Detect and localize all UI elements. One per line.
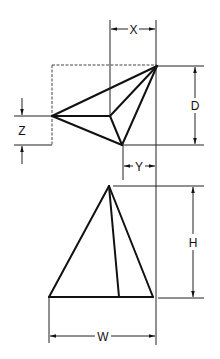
dimension-h: H [113, 186, 204, 298]
front-edge-left [49, 186, 109, 297]
top-edge-bottom-apex [122, 66, 157, 145]
dimension-h-label: H [189, 236, 198, 250]
top-edge-inner-apex [110, 66, 157, 116]
dimension-y-label: Y [135, 160, 143, 174]
pyramid-projection-diagram: X D Z Y H W [0, 0, 220, 359]
dimension-x-label: X [129, 23, 137, 37]
front-view [49, 186, 153, 297]
dimension-w: W [49, 298, 155, 344]
dimension-w-label: W [97, 330, 109, 344]
top-view [52, 65, 157, 145]
front-edge-inner [109, 186, 119, 297]
dimension-y: Y [123, 145, 155, 180]
front-edge-right [109, 186, 153, 297]
dimension-z-label: Z [18, 124, 25, 138]
top-edge-left-apex [52, 66, 157, 116]
dimension-z: Z [14, 98, 52, 164]
dimension-d-label: D [191, 99, 200, 113]
